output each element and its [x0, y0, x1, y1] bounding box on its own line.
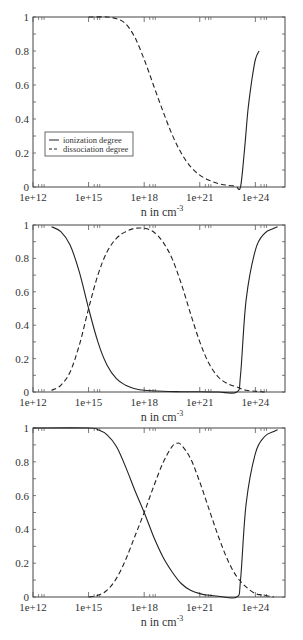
- legend: ionization degreedissociation degree: [45, 132, 133, 156]
- y-tick-label: 0.2: [15, 557, 29, 569]
- ionization-degree-line: [33, 428, 278, 598]
- x-axis-label: n in cm-3: [141, 614, 184, 629]
- y-tick-label: 1: [24, 11, 30, 23]
- ionization-degree-line: [52, 227, 278, 394]
- y-tick-label: 0.6: [15, 286, 29, 298]
- x-tick-label: 1e+12: [19, 191, 47, 203]
- x-tick-label: 1e+24: [242, 601, 270, 613]
- y-tick-label: 0.6: [15, 490, 29, 502]
- y-tick-label: 0.8: [15, 252, 29, 264]
- x-tick-label: 1e+21: [186, 601, 214, 613]
- x-tick-label: 1e+15: [75, 396, 103, 408]
- x-tick-label: 1e+12: [19, 396, 47, 408]
- dissociation-degree-line: [52, 228, 265, 392]
- ionization-degree-line: [237, 51, 259, 190]
- y-tick-label: 1: [24, 219, 30, 231]
- x-tick-label: 1e+15: [75, 601, 103, 613]
- x-tick-label: 1e+18: [130, 601, 158, 613]
- y-tick-label: 0.4: [15, 319, 29, 331]
- chart-svg: 00.20.40.60.811e+121e+151e+181e+211e+24n…: [0, 208, 303, 436]
- chart-panel-2: 00.20.40.60.811e+121e+151e+181e+211e+24n…: [0, 208, 303, 433]
- plot-frame: [33, 428, 285, 597]
- y-tick-label: 0.8: [15, 45, 29, 57]
- dissociation-degree-line: [89, 17, 237, 186]
- plot-frame: [33, 225, 285, 392]
- y-tick-label: 0.6: [15, 79, 29, 91]
- chart-svg: 00.20.40.60.811e+121e+151e+181e+211e+24n…: [0, 411, 303, 639]
- x-tick-label: 1e+18: [130, 191, 158, 203]
- y-tick-label: 0.4: [15, 113, 29, 125]
- legend-entry-label: dissociation degree: [63, 144, 129, 154]
- chart-panel-1: 00.20.40.60.811e+121e+151e+181e+211e+24n…: [0, 0, 303, 225]
- x-tick-label: 1e+21: [186, 191, 214, 203]
- y-tick-label: 0.2: [15, 147, 29, 159]
- y-tick-label: 0.2: [15, 353, 29, 365]
- y-tick-label: 0.4: [15, 523, 29, 535]
- dissociation-degree-line: [89, 443, 274, 597]
- chart-panel-3: 00.20.40.60.811e+121e+151e+181e+211e+24n…: [0, 411, 303, 636]
- chart-svg: 00.20.40.60.811e+121e+151e+181e+211e+24n…: [0, 0, 303, 228]
- x-tick-label: 1e+24: [242, 191, 270, 203]
- y-tick-label: 1: [24, 422, 30, 434]
- x-tick-label: 1e+18: [130, 396, 158, 408]
- x-tick-label: 1e+21: [186, 396, 214, 408]
- x-tick-label: 1e+24: [242, 396, 270, 408]
- x-tick-label: 1e+15: [75, 191, 103, 203]
- x-tick-label: 1e+12: [19, 601, 47, 613]
- y-tick-label: 0.8: [15, 456, 29, 468]
